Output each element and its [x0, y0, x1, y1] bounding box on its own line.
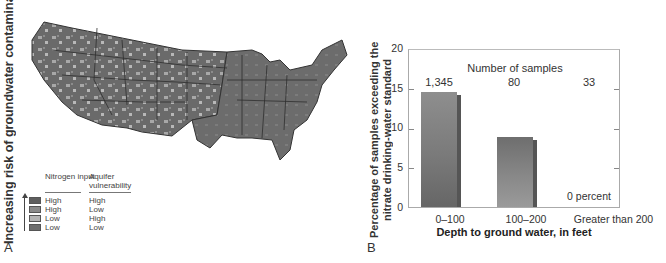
y-tick — [614, 129, 619, 130]
legend-swatch — [29, 224, 41, 231]
y-tick — [409, 89, 414, 90]
legend-nitrogen-value: High — [45, 196, 61, 205]
legend-header-rule — [89, 192, 131, 193]
legend-aquifer-value: Low — [89, 205, 104, 214]
y-tick — [614, 89, 619, 90]
y-tick — [409, 129, 414, 130]
y-tick-label: 15 — [389, 82, 403, 94]
x-category-label: Greater than 200 — [561, 213, 666, 225]
y-tick — [409, 168, 414, 169]
legend-nitrogen-value: High — [45, 205, 61, 214]
us-nitrate-risk-map — [22, 10, 362, 170]
sample-count: 33 — [559, 76, 619, 88]
legend-row: Low High — [22, 215, 132, 223]
legend-row: High High — [22, 197, 132, 205]
y-axis-label-line1: Percentage of samples exceeding the — [368, 40, 381, 240]
y-tick — [614, 168, 619, 169]
bar-0-100 — [421, 92, 457, 207]
bar-100-200 — [497, 137, 533, 207]
y-tick-label: 5 — [389, 161, 403, 173]
plot-area: Number of samples 1,345 80 33 0 percent — [408, 49, 620, 208]
x-axis-label: Depth to ground water, in feet — [408, 226, 620, 238]
y-tick-label: 0 — [389, 201, 403, 213]
panel-letter-b: B — [367, 240, 376, 255]
legend-aquifer-value: High — [89, 214, 105, 223]
legend-header-aquifer: Aquifer vulnerability — [89, 172, 129, 190]
panel-a-map: Increasing risk of groundwater contamina… — [0, 0, 365, 263]
panel-letter-a: A — [4, 240, 13, 255]
risk-axis-label: Increasing risk of groundwater contamina… — [2, 8, 18, 244]
sample-count-title: Number of samples — [409, 62, 621, 74]
legend-row: Low Low — [22, 224, 132, 232]
legend-row: High Low — [22, 206, 132, 214]
sample-count: 80 — [484, 76, 544, 88]
x-category-label: 100–200 — [481, 213, 571, 225]
sample-count: 1,345 — [409, 76, 469, 88]
legend-header-nitrogen: Nitrogen input — [45, 172, 95, 181]
legend-swatch — [29, 215, 41, 222]
legend-swatch — [29, 206, 41, 213]
y-tick-label: 20 — [389, 42, 403, 54]
panel-b-bar-chart: Percentage of samples exceeding the nitr… — [365, 0, 666, 263]
zero-percent-note: 0 percent — [549, 190, 629, 202]
legend-nitrogen-value: Low — [45, 214, 60, 223]
legend-aquifer-value: High — [89, 196, 105, 205]
y-tick-label: 10 — [389, 121, 403, 133]
legend-aquifer-value: Low — [89, 223, 104, 232]
legend-header-rule — [45, 192, 81, 193]
legend-nitrogen-value: Low — [45, 223, 60, 232]
legend-swatch — [29, 197, 41, 204]
